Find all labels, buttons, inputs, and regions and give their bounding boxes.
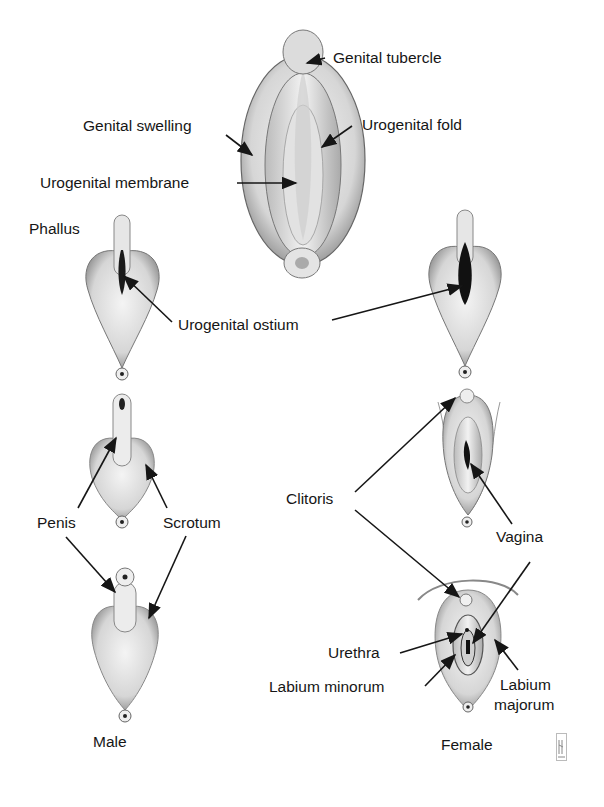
male-stage3-drawing <box>90 394 155 528</box>
label-scrotum: Scrotum <box>163 514 221 532</box>
label-penis: Penis <box>37 514 76 532</box>
publisher-logo-icon <box>556 733 567 761</box>
arrow-clitoris-upper <box>355 398 455 492</box>
arrow-clitoris-lower <box>355 510 459 597</box>
label-labium-majorum-line1: Labium <box>500 676 551 694</box>
label-urogenital-membrane: Urogenital membrane <box>40 174 189 192</box>
genitalia-development-diagram: Genital tubercle Genital swelling Urogen… <box>0 0 604 807</box>
caption-female: Female <box>441 736 493 754</box>
indifferent-stage-drawing <box>241 30 365 278</box>
early-male-drawing <box>86 215 159 380</box>
arrow-penis-lower <box>66 537 115 592</box>
label-genital-swelling: Genital swelling <box>83 117 192 135</box>
label-urogenital-ostium: Urogenital ostium <box>178 316 299 334</box>
female-stage3-drawing <box>438 389 500 527</box>
label-phallus: Phallus <box>29 220 80 238</box>
caption-male: Male <box>93 733 127 751</box>
arrow-scrotum-lower <box>149 536 186 618</box>
label-genital-tubercle: Genital tubercle <box>333 49 442 67</box>
arrow-scrotum-upper <box>146 465 167 508</box>
label-vagina: Vagina <box>496 528 543 546</box>
label-urogenital-fold: Urogenital fold <box>362 116 462 134</box>
label-labium-minorum: Labium minorum <box>269 678 384 696</box>
male-final-drawing <box>92 568 159 722</box>
early-female-drawing <box>429 210 501 378</box>
label-clitoris: Clitoris <box>286 490 333 508</box>
label-labium-majorum-line2: majorum <box>494 696 554 714</box>
label-urethra: Urethra <box>328 644 380 662</box>
